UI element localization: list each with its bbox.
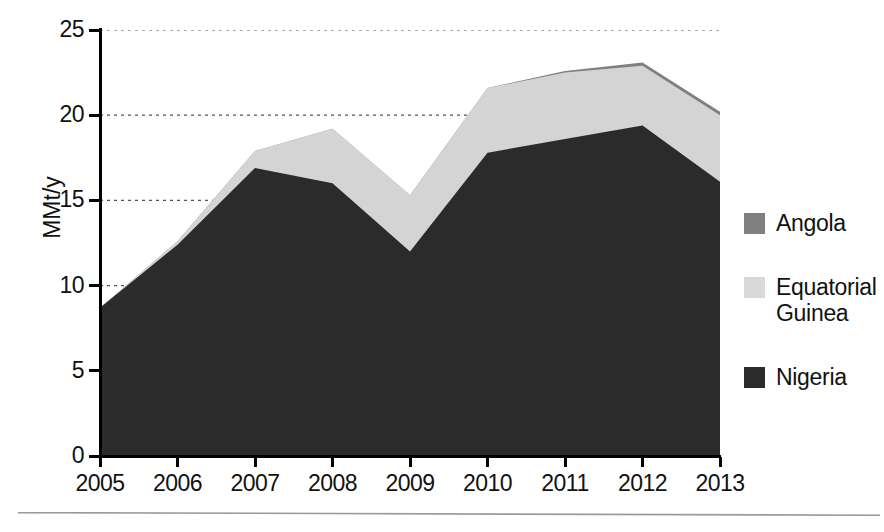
x-tick-label: 2010 [449,470,527,496]
x-tick [486,457,489,467]
legend-label: Equatorial Guinea [776,274,884,326]
x-tick [254,457,257,467]
legend-swatch-icon [744,367,765,388]
legend-item-angola[interactable]: Angola [744,210,884,236]
y-tick-label: 25 [40,18,84,41]
legend-swatch-icon [744,213,765,234]
plot-area [100,30,720,456]
x-tick [176,457,179,467]
bottom-divider [18,512,880,516]
chart-figure: 2520151050 20052006200720082009201020112… [0,0,884,532]
x-tick [564,457,567,467]
x-tick [409,457,412,467]
legend-item-nigeria[interactable]: Nigeria [744,364,884,390]
x-tick-label: 2012 [604,470,682,496]
legend-label: Angola [776,210,846,236]
x-tick-label: 2006 [139,470,217,496]
area-series-group [100,62,720,456]
x-tick [99,457,102,467]
x-tick [719,457,722,467]
y-axis-line [99,28,102,458]
y-tick [89,29,100,32]
x-tick-label: 2005 [61,470,139,496]
x-tick-label: 2009 [371,470,449,496]
stacked-area-chart [100,30,720,456]
y-tick-label: 10 [40,274,84,297]
area-nigeria [100,125,720,456]
legend-label: Nigeria [776,364,847,390]
y-tick-label: 20 [40,103,84,126]
y-axis-title: MMt/y [41,148,64,268]
x-tick-label: 2011 [526,470,604,496]
y-tick [89,284,100,287]
x-tick-label: 2007 [216,470,294,496]
y-tick [89,114,100,117]
chart-legend: AngolaEquatorial GuineaNigeria [744,210,884,428]
y-tick [89,369,100,372]
y-tick-label: 0 [40,444,84,467]
y-tick [89,199,100,202]
legend-swatch-icon [744,277,765,298]
legend-item-equatorial-guinea[interactable]: Equatorial Guinea [744,274,884,326]
y-tick-label: 5 [40,359,84,382]
x-tick [641,457,644,467]
x-tick-label: 2008 [294,470,372,496]
x-tick [331,457,334,467]
x-tick-label: 2013 [681,470,759,496]
